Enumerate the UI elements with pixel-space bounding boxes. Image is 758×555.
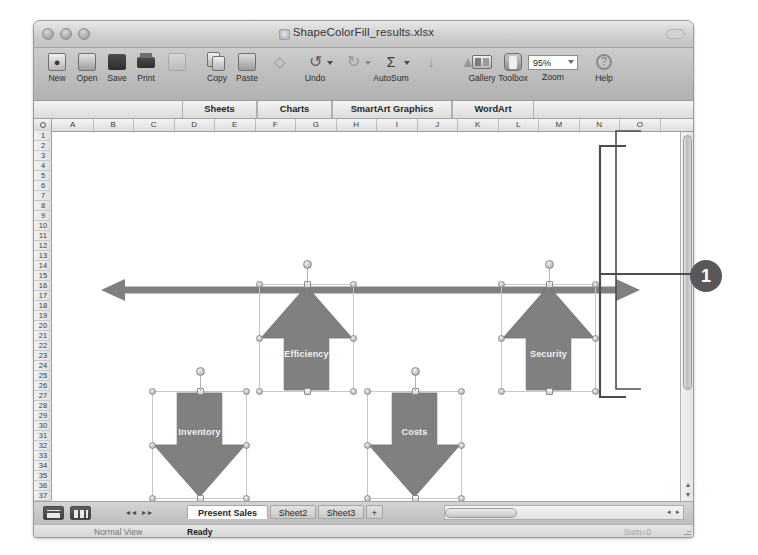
toolbar-button-undo[interactable]: ↺ Undo xyxy=(296,51,334,83)
row-header-24[interactable]: 24 xyxy=(34,361,52,371)
resize-handle-se[interactable] xyxy=(592,388,599,395)
resize-handle-nw[interactable] xyxy=(498,281,505,288)
row-header-6[interactable]: 6 xyxy=(34,181,52,191)
row-header-30[interactable]: 30 xyxy=(34,421,52,431)
resize-handle-sw[interactable] xyxy=(256,388,263,395)
row-header-4[interactable]: 4 xyxy=(34,161,52,171)
scroll-down-button[interactable]: ▼ xyxy=(684,491,692,499)
resize-handle-e[interactable] xyxy=(458,442,465,449)
sheet-tab-sheet3[interactable]: Sheet3 xyxy=(318,505,364,519)
horizontal-scrollbar[interactable] xyxy=(444,505,684,520)
column-header-N[interactable]: N xyxy=(580,119,621,131)
row-header-34[interactable]: 34 xyxy=(34,461,52,471)
resize-grip[interactable] xyxy=(680,528,691,538)
vertical-scroll-thumb[interactable] xyxy=(683,135,692,390)
undo-dropdown-icon[interactable] xyxy=(327,61,333,65)
row-header-20[interactable]: 20 xyxy=(34,321,52,331)
tab-sheets[interactable]: Sheets xyxy=(182,101,257,118)
autosum-dropdown-icon[interactable] xyxy=(404,61,410,65)
column-header-F[interactable]: F xyxy=(256,119,297,131)
sheet-tab-present-sales[interactable]: Present Sales xyxy=(187,505,268,519)
row-header-15[interactable]: 15 xyxy=(34,271,52,281)
rotation-handle[interactable] xyxy=(303,260,312,269)
column-header-A[interactable]: A xyxy=(53,119,94,131)
scroll-up-button[interactable]: ▲ xyxy=(684,481,692,489)
row-header-12[interactable]: 12 xyxy=(34,241,52,251)
row-header-26[interactable]: 26 xyxy=(34,381,52,391)
redo-dropdown-icon[interactable] xyxy=(365,61,371,65)
resize-handle-ne[interactable] xyxy=(350,281,357,288)
row-header-37[interactable]: 37 xyxy=(34,491,52,501)
column-header-M[interactable]: M xyxy=(539,119,580,131)
smartart-arrow-efficiency[interactable] xyxy=(259,284,354,392)
row-header-33[interactable]: 33 xyxy=(34,451,52,461)
page-layout-view-button[interactable] xyxy=(70,506,91,520)
row-header-14[interactable]: 14 xyxy=(34,261,52,271)
tab-charts[interactable]: Charts xyxy=(257,101,332,118)
column-header-E[interactable]: E xyxy=(215,119,256,131)
rotation-handle[interactable] xyxy=(196,367,205,376)
toolbar-button-autosum[interactable]: Σ AutoSum xyxy=(372,51,410,83)
toolbar-button-help[interactable]: ? Help xyxy=(585,51,623,83)
row-header-1[interactable]: 1 xyxy=(34,131,52,141)
vertical-scrollbar[interactable]: ▲ ▼ xyxy=(680,132,693,501)
resize-handle-s[interactable] xyxy=(546,388,553,395)
row-header-17[interactable]: 17 xyxy=(34,291,52,301)
smartart-arrow-costs[interactable] xyxy=(367,391,462,499)
row-header-10[interactable]: 10 xyxy=(34,221,52,231)
column-header-D[interactable]: D xyxy=(175,119,216,131)
resize-handle-w[interactable] xyxy=(149,442,156,449)
row-header-16[interactable]: 16 xyxy=(34,281,52,291)
row-header-32[interactable]: 32 xyxy=(34,441,52,451)
resize-handle-nw[interactable] xyxy=(364,388,371,395)
tab-smartart-graphics[interactable]: SmartArt Graphics xyxy=(332,101,452,118)
smartart-arrow-inventory[interactable] xyxy=(152,391,247,499)
row-header-5[interactable]: 5 xyxy=(34,171,52,181)
resize-handle-ne[interactable] xyxy=(592,281,599,288)
column-header-O[interactable]: O xyxy=(620,119,661,131)
row-header-36[interactable]: 36 xyxy=(34,481,52,491)
select-all-corner-icon[interactable] xyxy=(34,119,52,131)
zoom-input[interactable]: 95% xyxy=(528,55,578,70)
row-header-28[interactable]: 28 xyxy=(34,401,52,411)
resize-handle-e[interactable] xyxy=(243,442,250,449)
horizontal-scroll-thumb[interactable] xyxy=(445,508,517,518)
row-header-11[interactable]: 11 xyxy=(34,231,52,241)
toolbar-toggle-button[interactable] xyxy=(666,29,685,39)
row-header-7[interactable]: 7 xyxy=(34,191,52,201)
resize-handle-w[interactable] xyxy=(256,335,263,342)
sheet-tab-sheet2[interactable]: Sheet2 xyxy=(270,505,316,519)
column-header-C[interactable]: C xyxy=(134,119,175,131)
column-header-H[interactable]: H xyxy=(337,119,378,131)
toolbar-button-toolbox[interactable]: Toolbox xyxy=(494,51,532,83)
toolbar-button-sort[interactable]: ↓ xyxy=(412,51,450,74)
hscroll-right-button[interactable]: ▸ xyxy=(676,508,680,516)
row-header-3[interactable]: 3 xyxy=(34,151,52,161)
rotation-handle[interactable] xyxy=(411,367,420,376)
resize-handle-nw[interactable] xyxy=(256,281,263,288)
row-header-8[interactable]: 8 xyxy=(34,201,52,211)
hscroll-left-button[interactable]: ◂ xyxy=(667,508,671,516)
resize-handle-nw[interactable] xyxy=(149,388,156,395)
resize-handle-ne[interactable] xyxy=(243,388,250,395)
rotation-handle[interactable] xyxy=(545,260,554,269)
row-header-2[interactable]: 2 xyxy=(34,141,52,151)
column-header-J[interactable]: J xyxy=(418,119,459,131)
resize-handle-sw[interactable] xyxy=(498,388,505,395)
resize-handle-w[interactable] xyxy=(364,442,371,449)
normal-view-button[interactable] xyxy=(43,506,64,520)
row-header-18[interactable]: 18 xyxy=(34,301,52,311)
column-header-B[interactable]: B xyxy=(94,119,135,131)
smartart-arrow-security[interactable] xyxy=(501,284,596,392)
column-header-K[interactable]: K xyxy=(458,119,499,131)
row-header-25[interactable]: 25 xyxy=(34,371,52,381)
resize-handle-ne[interactable] xyxy=(458,388,465,395)
column-header-I[interactable]: I xyxy=(377,119,418,131)
toolbar-button-print-preview[interactable] xyxy=(158,51,196,74)
resize-handle-e[interactable] xyxy=(592,335,599,342)
row-header-13[interactable]: 13 xyxy=(34,251,52,261)
resize-handle-e[interactable] xyxy=(350,335,357,342)
resize-handle-se[interactable] xyxy=(350,388,357,395)
row-header-21[interactable]: 21 xyxy=(34,331,52,341)
row-header-31[interactable]: 31 xyxy=(34,431,52,441)
